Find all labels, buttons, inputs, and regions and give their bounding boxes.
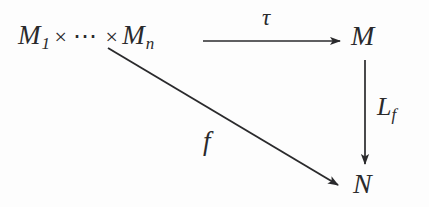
- node-source-base: M: [18, 20, 41, 50]
- node-source-sub-first: 1: [42, 34, 51, 53]
- times-operator-second: ×: [101, 24, 122, 49]
- node-source-base-last: M: [122, 20, 145, 50]
- node-source-sub-last: n: [146, 34, 155, 53]
- arrow-label-lf-base: L: [377, 92, 391, 121]
- times-operator-first: ×: [51, 24, 72, 49]
- arrow-label-tau: τ: [262, 6, 270, 29]
- arrow-label-lf-sub: f: [391, 105, 396, 124]
- node-n: N: [353, 170, 372, 198]
- f-arrow-line: [108, 48, 338, 185]
- commutative-diagram: M1×⋯×Mn M N τ Lf f: [0, 0, 429, 207]
- ellipsis-dots: ⋯: [71, 23, 101, 49]
- node-source-product: M1×⋯×Mn: [18, 22, 155, 52]
- arrow-label-f: f: [203, 128, 211, 155]
- arrow-label-lf: Lf: [377, 94, 396, 123]
- node-m: M: [351, 22, 374, 50]
